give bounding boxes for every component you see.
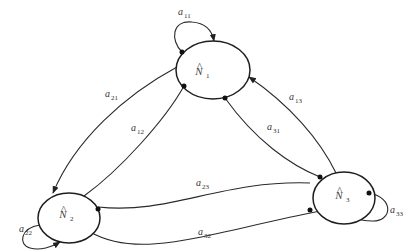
- svg-text:a: a: [390, 204, 395, 215]
- svg-text:N: N: [194, 65, 203, 77]
- svg-text:3: 3: [346, 196, 350, 204]
- svg-text:a: a: [19, 223, 24, 234]
- label-a13: a 13: [289, 91, 303, 105]
- svg-text:2: 2: [70, 215, 74, 223]
- svg-text:31: 31: [273, 127, 281, 135]
- origin-dot: [96, 207, 101, 212]
- node-n3: [313, 172, 375, 224]
- origin-dot: [182, 84, 187, 89]
- label-a12: a 12: [131, 122, 145, 136]
- svg-text:N: N: [58, 208, 67, 220]
- svg-text:32: 32: [204, 232, 212, 240]
- svg-text:21: 21: [111, 94, 119, 102]
- svg-text:11: 11: [184, 12, 191, 20]
- edge-a31: [225, 98, 320, 177]
- edge-a12: [84, 86, 184, 196]
- state-diagram: ^ N 1 ^ N 2 ^ N 3 a 11 a 21 a 12 a 13 a …: [0, 0, 417, 251]
- label-a21: a 21: [105, 88, 119, 102]
- svg-text:a: a: [131, 122, 136, 133]
- svg-text:33: 33: [396, 210, 404, 218]
- edge-a21: [53, 67, 177, 193]
- svg-text:a: a: [196, 177, 201, 188]
- origin-dot: [318, 175, 323, 180]
- label-a33: a 33: [390, 204, 404, 218]
- label-a11: a 11: [178, 6, 191, 20]
- svg-text:a: a: [178, 6, 183, 17]
- svg-text:a: a: [105, 88, 110, 99]
- origin-dot: [367, 191, 372, 196]
- label-a32: a 32: [198, 226, 212, 240]
- svg-text:12: 12: [137, 128, 145, 136]
- origin-dot: [308, 208, 313, 213]
- label-a31: a 31: [267, 121, 281, 135]
- svg-text:a: a: [198, 226, 203, 237]
- svg-text:23: 23: [202, 183, 210, 191]
- label-a23: a 23: [196, 177, 210, 191]
- svg-text:22: 22: [25, 229, 33, 237]
- svg-text:13: 13: [295, 97, 303, 105]
- svg-text:a: a: [267, 121, 272, 132]
- origin-dot: [180, 50, 185, 55]
- svg-text:1: 1: [206, 72, 210, 80]
- node-n1: [176, 41, 250, 99]
- label-a22: a 22: [19, 223, 33, 237]
- svg-text:a: a: [289, 91, 294, 102]
- origin-dot: [223, 96, 228, 101]
- svg-text:N: N: [334, 189, 343, 201]
- node-n2: [38, 193, 100, 243]
